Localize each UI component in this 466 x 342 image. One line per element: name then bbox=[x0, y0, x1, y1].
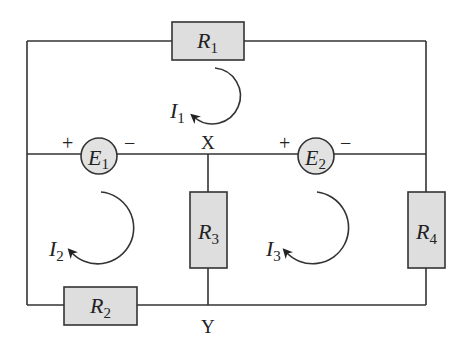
e1-subscript: 1 bbox=[101, 156, 109, 172]
svg-text:I1: I1 bbox=[169, 98, 185, 126]
node-x-label: X bbox=[201, 132, 215, 153]
clockwise-arrow-icon bbox=[71, 192, 134, 264]
r1-subscript: 1 bbox=[210, 40, 218, 56]
node-y-label: Y bbox=[201, 316, 215, 337]
e2-plus-sign: + bbox=[279, 132, 290, 154]
resistor-r1: R1 bbox=[172, 22, 244, 60]
source-e2: E2 + − bbox=[279, 132, 351, 174]
i3-subscript: 3 bbox=[273, 248, 281, 264]
loop-current-i3: I3 bbox=[265, 192, 349, 264]
r1-letter: R bbox=[196, 28, 211, 53]
loop-current-i1: I1 bbox=[169, 68, 240, 126]
r4-subscript: 4 bbox=[429, 231, 437, 247]
e2-minus-sign: − bbox=[340, 132, 351, 154]
r2-subscript: 2 bbox=[103, 305, 111, 321]
loop-current-i2: I2 bbox=[48, 192, 134, 264]
clockwise-arrow-icon bbox=[194, 68, 240, 124]
e2-subscript: 2 bbox=[318, 156, 326, 172]
circuit-diagram: R1 R2 R3 R4 E1 + − E2 + − X Y I1 I2 bbox=[0, 0, 466, 342]
e1-minus-sign: − bbox=[124, 132, 135, 154]
resistor-r4: R4 bbox=[408, 192, 445, 268]
i2-subscript: 2 bbox=[56, 248, 64, 264]
r3-letter: R bbox=[197, 219, 212, 244]
clockwise-arrow-icon bbox=[286, 192, 349, 264]
r3-subscript: 3 bbox=[211, 231, 219, 247]
svg-text:I2: I2 bbox=[48, 236, 64, 264]
r4-letter: R bbox=[415, 219, 430, 244]
e1-letter: E bbox=[87, 145, 102, 170]
r2-letter: R bbox=[89, 293, 104, 318]
i1-subscript: 1 bbox=[177, 110, 185, 126]
e2-letter: E bbox=[304, 145, 319, 170]
source-e1: E1 + − bbox=[62, 132, 135, 174]
svg-text:I3: I3 bbox=[265, 236, 281, 264]
resistor-r3: R3 bbox=[190, 192, 227, 268]
resistor-r2: R2 bbox=[64, 287, 137, 325]
e1-plus-sign: + bbox=[62, 132, 73, 154]
